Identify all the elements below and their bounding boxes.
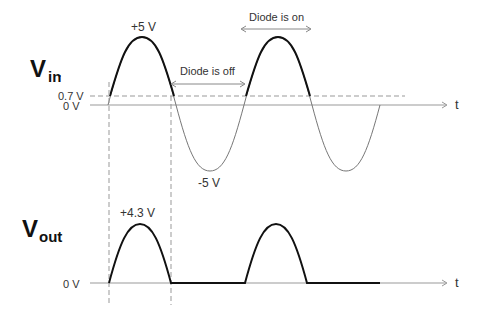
vin-conducting-segment-2 <box>246 37 310 96</box>
vin-peak-label: +5 V <box>131 20 156 34</box>
vin-trough-label: -5 V <box>198 176 220 190</box>
vin-waveform <box>108 37 380 171</box>
vout-zero-label: 0 V <box>63 278 80 290</box>
vin-label-dot: . <box>58 66 61 80</box>
vin-conducting-segment-1 <box>110 37 174 96</box>
vout-peak-label: +4.3 V <box>120 206 155 220</box>
vout-waveform <box>109 224 380 283</box>
diode-off-label: Diode is off <box>180 65 236 77</box>
vout-axis-t-label: t <box>455 275 459 290</box>
vin-zero-label: 0 V <box>63 100 80 112</box>
vout-label-main: V <box>22 215 38 242</box>
vout-label-sub: out <box>39 228 62 245</box>
rectifier-diagram: V in . 0.7 V 0 V t +5 V -5 V Diode is of… <box>0 0 482 311</box>
diode-on-label: Diode is on <box>249 11 304 23</box>
vin-axis-t-label: t <box>455 97 459 112</box>
vin-label-main: V <box>30 55 46 82</box>
